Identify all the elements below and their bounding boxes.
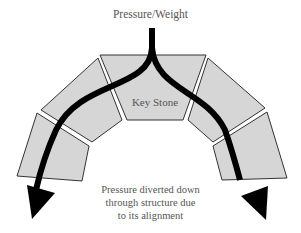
note-line-2: through structure due bbox=[95, 196, 206, 209]
right-arrowhead-icon bbox=[241, 186, 268, 220]
key-stone-label: Key Stone bbox=[127, 96, 183, 108]
arch-diagram: Pressure/Weight Key Stone Pressure diver… bbox=[0, 0, 301, 233]
pressure-weight-label: Pressure/Weight bbox=[0, 8, 301, 20]
note-line-1: Pressure diverted down bbox=[95, 183, 206, 196]
left-arrowhead-icon bbox=[27, 185, 55, 219]
pressure-note: Pressure diverted down through structure… bbox=[95, 183, 206, 222]
note-line-3: to its alignment bbox=[95, 209, 206, 222]
